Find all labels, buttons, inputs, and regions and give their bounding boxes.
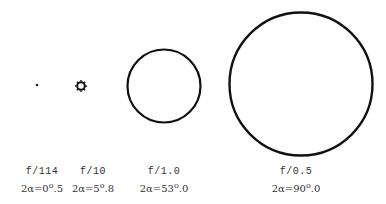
spot-f10 <box>75 80 87 92</box>
f-number: f/10 <box>72 165 114 179</box>
f-number: f/1.0 <box>140 165 189 179</box>
half-angle: 2α=0o.5 <box>21 179 63 196</box>
f-number: f/114 <box>21 165 63 179</box>
half-angle: 2α=53o.0 <box>140 179 189 196</box>
half-angle: 2α=5o.8 <box>72 179 114 196</box>
f-number: f/0.5 <box>272 165 321 179</box>
label-f1-0: f/1.0 2α=53o.0 <box>140 165 189 196</box>
half-angle: 2α=90o.0 <box>272 179 321 196</box>
circle-f0-5 <box>230 13 373 156</box>
spot-f114 <box>36 84 39 87</box>
label-f114: f/114 2α=0o.5 <box>21 165 63 196</box>
circle-f1-0 <box>128 50 201 123</box>
label-f0-5: f/0.5 2α=90o.0 <box>272 165 321 196</box>
label-f10: f/10 2α=5o.8 <box>72 165 114 196</box>
